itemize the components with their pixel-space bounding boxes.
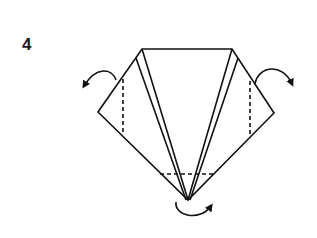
left-fold-arrow xyxy=(84,71,116,86)
outer-outline xyxy=(98,49,274,200)
origami-diagram xyxy=(0,0,317,238)
bottom-fold-arrow xyxy=(176,202,211,216)
right-fold-arrow xyxy=(255,69,292,84)
inner-flap-lines xyxy=(136,49,238,200)
